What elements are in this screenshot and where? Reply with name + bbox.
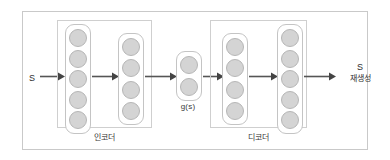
autoencoder-diagram: S 인코더 xyxy=(0,0,390,160)
input-label: S xyxy=(24,73,40,84)
neuron-node xyxy=(281,70,299,88)
decoder-group-label: 디코더 xyxy=(210,131,307,142)
arrow-encoder2-to-bottleneck xyxy=(145,71,178,82)
arrow-decoder2-to-output xyxy=(304,71,337,82)
neuron-node xyxy=(226,81,244,99)
output-label: S 재생성 xyxy=(338,62,382,84)
arrow-decoder1-to-decoder2 xyxy=(249,71,279,82)
encoder-layer-2 xyxy=(118,33,144,125)
arrow-encoder1-to-encoder2 xyxy=(92,71,120,82)
neuron-node xyxy=(69,111,87,129)
bottleneck-layer xyxy=(176,51,202,101)
neuron-node xyxy=(226,59,244,77)
neuron-node xyxy=(122,59,140,77)
output-label-line-2: 재생성 xyxy=(338,73,382,84)
neuron-node xyxy=(122,102,140,120)
neuron-node xyxy=(226,38,244,56)
neuron-node xyxy=(281,29,299,47)
neuron-node xyxy=(180,78,198,96)
neuron-node xyxy=(69,70,87,88)
neuron-node xyxy=(281,111,299,129)
neuron-node xyxy=(69,50,87,68)
decoder-layer-2 xyxy=(277,24,303,134)
neuron-node xyxy=(226,102,244,120)
encoder-group-label: 인코더 xyxy=(57,131,152,142)
encoder-layer-1 xyxy=(65,24,91,134)
neuron-node xyxy=(122,38,140,56)
neuron-node xyxy=(281,91,299,109)
neuron-node xyxy=(122,81,140,99)
neuron-node xyxy=(69,91,87,109)
neuron-node xyxy=(180,56,198,74)
neuron-node xyxy=(69,29,87,47)
bottleneck-label: g(s) xyxy=(168,102,208,111)
decoder-layer-1 xyxy=(222,33,248,125)
output-label-line-1: S xyxy=(357,62,363,72)
neuron-node xyxy=(281,50,299,68)
